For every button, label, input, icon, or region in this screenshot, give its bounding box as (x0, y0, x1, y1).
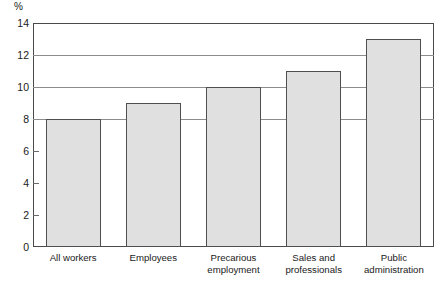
y-tick-label: 6 (3, 146, 29, 157)
y-tick-label: 8 (3, 114, 29, 125)
y-tick-label: 10 (3, 82, 29, 93)
y-tick-label: 0 (3, 242, 29, 253)
y-axis-unit-label: % (14, 2, 23, 12)
bar (286, 71, 341, 247)
y-tick-label: 4 (3, 178, 29, 189)
x-axis-label: Sales and professionals (274, 252, 354, 275)
x-axis-label: Employees (113, 252, 193, 264)
y-tick-label: 12 (3, 50, 29, 61)
bar-chart: % 02468101214 All workersEmployeesPrecar… (0, 0, 444, 286)
bar (126, 103, 181, 247)
x-axis-label: Precarious employment (193, 252, 273, 275)
tickmark-6 (33, 151, 39, 152)
tickmark-2 (33, 215, 39, 216)
x-axis-label: Public administration (354, 252, 434, 275)
x-axis-label: All workers (33, 252, 113, 264)
y-tick-label: 14 (3, 18, 29, 29)
bar (366, 39, 421, 247)
bar (46, 119, 101, 247)
y-tick-label: 2 (3, 210, 29, 221)
tickmark-4 (33, 183, 39, 184)
bar (206, 87, 261, 247)
